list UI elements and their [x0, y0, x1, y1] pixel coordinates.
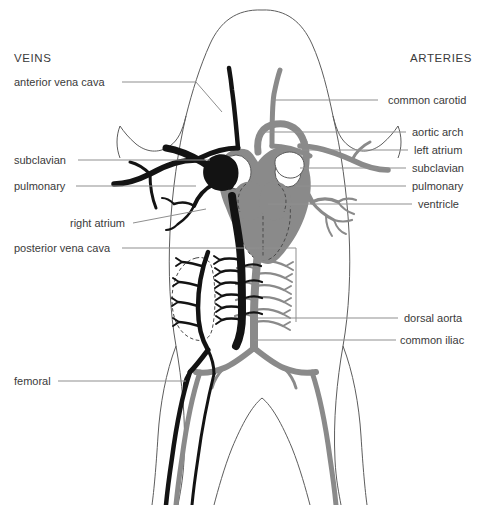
label-ventricle: ventricle — [418, 198, 459, 210]
arterial-system — [176, 70, 388, 505]
circulatory-system-diagram: VEINS ARTERIES anterior vena cava subcla… — [0, 0, 480, 505]
left-labels: anterior vena cava subclavian pulmonary … — [14, 76, 125, 387]
dorsal-aorta — [254, 252, 258, 348]
label-right-atrium: right atrium — [70, 217, 125, 229]
label-left-atrium: left atrium — [414, 144, 462, 156]
label-femoral: femoral — [14, 375, 51, 387]
femoral-artery-left — [176, 372, 200, 505]
subclavian-vein — [114, 160, 196, 184]
label-aortic-arch: aortic arch — [412, 126, 463, 138]
label-pulmonary-artery: pulmonary — [412, 180, 464, 192]
arteries-header: ARTERIES — [410, 52, 472, 64]
veins-header: VEINS — [14, 52, 52, 64]
label-subclavian-artery: subclavian — [412, 162, 464, 174]
label-dorsal-aorta: dorsal aorta — [404, 312, 463, 324]
femoral-artery-right — [312, 372, 336, 505]
label-anterior-vena-cava: anterior vena cava — [14, 76, 105, 88]
pulmonary-vein — [162, 184, 214, 230]
label-pulmonary-vein: pulmonary — [14, 180, 66, 192]
label-common-carotid: common carotid — [388, 94, 466, 106]
label-posterior-vena-cava: posterior vena cava — [14, 242, 111, 254]
label-subclavian-vein: subclavian — [14, 154, 66, 166]
common-carotid-artery — [272, 70, 280, 146]
label-common-iliac: common iliac — [400, 334, 465, 346]
venous-system — [114, 68, 262, 505]
kidney-outline-dashed — [172, 257, 215, 340]
